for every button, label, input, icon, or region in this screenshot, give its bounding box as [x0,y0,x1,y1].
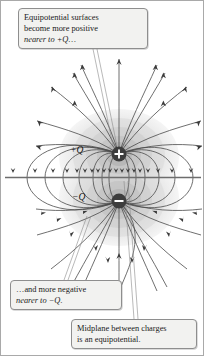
callout-mid-line-1: Midplane between charges [77,323,191,334]
callout-equipotential-positive: Equipotential surfaces become more posit… [18,8,148,49]
negative-charge [112,194,127,209]
positive-charge-label: +Q [70,145,83,155]
positive-charge [112,147,127,162]
callout-mid-line-2: is an equipotential. [77,334,191,345]
negative-charge-label: −Q [72,192,85,202]
callout-neg-line-2: nearer to −Q. [16,295,116,306]
callout-midplane: Midplane between charges is an equipoten… [71,319,197,349]
callout-equipotential-negative: …and more negative nearer to −Q. [10,280,122,310]
callout-neg-line-1: …and more negative [16,284,116,295]
callout-top-line-3: nearer to +Q… [24,34,142,45]
electric-dipole-equipotential-diagram: +Q −Q Equipotential surfaces become more… [0,0,204,356]
callout-top-line-1: Equipotential surfaces [24,12,142,23]
callout-top-line-2: become more positive [24,23,142,34]
